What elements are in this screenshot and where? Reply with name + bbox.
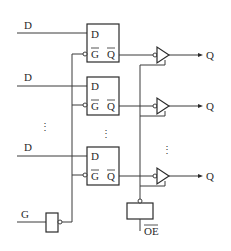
g-inverter-bubble — [58, 220, 62, 224]
latch-1-g-bubble — [83, 52, 87, 56]
g-inverter-block — [46, 213, 58, 232]
arrow-right-icon — [198, 104, 203, 108]
latch-1-q-pin: Q — [107, 48, 115, 60]
ellipsis-buffers: ⋮ — [162, 144, 172, 155]
latch-circuit-diagram: G OE D D G Q — [0, 0, 231, 251]
stage-1: D D G Q Q — [17, 19, 214, 63]
tristate-buffer-3 — [157, 168, 169, 184]
tristate-buffer-2 — [157, 98, 169, 114]
q-output-label-3: Q — [206, 170, 214, 182]
oe-buffer-bubble — [138, 199, 142, 203]
latch-1-g-pin: G — [91, 48, 99, 60]
ellipsis-latches: ⋮ — [101, 128, 111, 139]
latch-3-d-pin: D — [91, 150, 99, 162]
tristate-buffer-1 — [157, 47, 169, 63]
latch-2-q-pin: Q — [107, 100, 115, 112]
stage-3: D D G Q Q — [17, 141, 214, 185]
arrow-right-icon — [198, 53, 203, 57]
output-enable-network: OE — [127, 60, 165, 237]
latch-2-d-pin: D — [91, 80, 99, 92]
latch-2-g-pin: G — [91, 100, 99, 112]
g-input-label: G — [21, 208, 29, 220]
arrow-right-icon — [198, 174, 203, 178]
d-input-label-3: D — [24, 141, 32, 153]
ellipsis-inputs: ⋮ — [40, 121, 50, 132]
latch-3-g-pin: G — [91, 170, 99, 182]
oe-input-label: OE — [144, 225, 159, 237]
oe-buffer-block — [127, 203, 153, 219]
stage-2: D D G Q Q — [17, 71, 214, 115]
latch-2-g-bubble — [83, 103, 87, 107]
latch-1-d-pin: D — [91, 28, 99, 40]
d-input-label-2: D — [24, 71, 32, 83]
d-input-label-1: D — [24, 19, 32, 31]
q-output-label-2: Q — [206, 100, 214, 112]
latch-3-q-pin: Q — [107, 170, 115, 182]
q-output-label-1: Q — [206, 49, 214, 61]
latch-3-g-bubble — [83, 173, 87, 177]
